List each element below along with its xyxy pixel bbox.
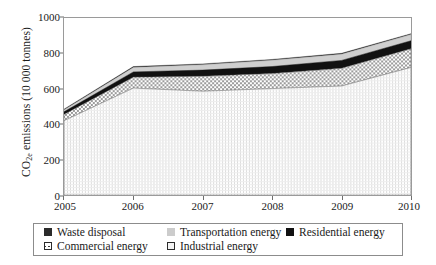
legend-label-industrial-energy: Industrial energy — [180, 240, 258, 252]
x-tick-label-2005: 2005 — [54, 201, 76, 212]
x-tick-label-2009: 2009 — [331, 201, 353, 212]
chart-legend: Waste disposal Transportation energy Res… — [33, 223, 403, 256]
waste-disposal-swatch-icon — [44, 228, 52, 236]
legend-row-1: Waste disposal Transportation energy Res… — [34, 226, 402, 241]
transportation-energy-swatch-icon — [167, 228, 175, 236]
legend-label-commercial-energy: Commercial energy — [57, 240, 148, 252]
y-axis: 1000 800 600 400 200 0 — [20, 17, 60, 196]
legend-item-industrial-energy[interactable]: Industrial energy — [167, 240, 258, 252]
y-tick-label-600: 600 — [26, 83, 60, 94]
legend-label-residential-energy: Residential energy — [299, 226, 385, 238]
legend-label-transportation-energy: Transportation energy — [180, 226, 281, 238]
legend-item-residential-energy[interactable]: Residential energy — [286, 226, 385, 238]
legend-label-waste-disposal: Waste disposal — [57, 226, 125, 238]
legend-item-commercial-energy[interactable]: Commercial energy — [44, 240, 148, 252]
x-tick-label-2010: 2010 — [398, 201, 420, 212]
plot-area — [63, 17, 412, 196]
chart-figure: CO2e emissions (10 000 tonnes) 1000 800 … — [0, 0, 436, 265]
y-tick-label-400: 400 — [26, 119, 60, 130]
residential-energy-swatch-icon — [286, 228, 294, 236]
industrial-energy-swatch-icon — [167, 242, 175, 250]
y-tick-label-800: 800 — [26, 47, 60, 58]
stacked-area-svg — [64, 18, 411, 195]
legend-item-transportation-energy[interactable]: Transportation energy — [167, 226, 281, 238]
legend-row-2: Commercial energy Industrial energy — [34, 240, 402, 255]
commercial-energy-swatch-icon — [44, 242, 52, 250]
x-tick-label-2006: 2006 — [122, 201, 144, 212]
x-tick-label-2008: 2008 — [261, 201, 283, 212]
x-tick-label-2007: 2007 — [192, 201, 214, 212]
y-tick-label-200: 200 — [26, 155, 60, 166]
x-axis: 2005 2006 2007 2008 2009 2010 — [63, 196, 412, 218]
legend-item-waste-disposal[interactable]: Waste disposal — [44, 226, 125, 238]
y-tick-label-1000: 1000 — [26, 12, 60, 23]
